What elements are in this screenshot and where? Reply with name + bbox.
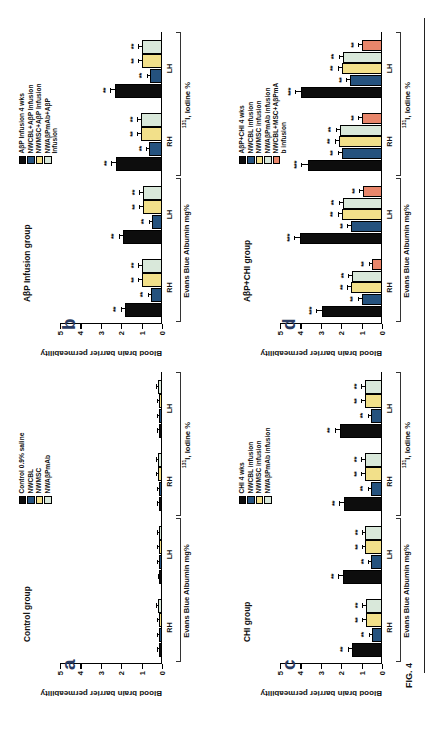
bar-b-c3-s2 (142, 55, 162, 69)
error-cap-a-c1-s0 (158, 574, 159, 578)
error-bar-a-c2-s3 (157, 459, 158, 460)
significance-b-c2-s3: ** (128, 117, 137, 122)
legend-item-c-3[interactable]: NWAβPmAb infusion (264, 372, 272, 504)
bar-b-c1-s0 (123, 230, 162, 244)
legend-item-a-2[interactable]: NWMSC (35, 372, 43, 504)
significance-c-c0-s2: ** (353, 618, 362, 623)
legend-item-c-2[interactable]: NWMSC infusion (255, 372, 263, 504)
bar-a-c1-s2 (159, 541, 162, 555)
legend-label-a-1: NWCBL (27, 469, 35, 494)
legend-item-d-1[interactable]: NWCBL infusion (247, 32, 255, 164)
y-tick-a-3 (101, 664, 102, 669)
bar-a-c2-s0 (159, 497, 162, 511)
y-tick-c-3 (321, 664, 322, 669)
measure-label-a-1: 131I, Iodine % (182, 422, 192, 468)
legend-item-d-4[interactable]: NWCBL+MSC+AβPmA b infusion (272, 32, 287, 164)
error-cap-a-c1-s3 (157, 530, 158, 534)
measure-bracket-c-1 (396, 372, 401, 516)
legend-swatch-d-1 (247, 157, 255, 165)
panel-letter-d: d (278, 319, 300, 330)
significance-d-c2-s0: *** (292, 161, 301, 169)
error-cap-d-c2-s4 (358, 116, 359, 120)
error-bar-c-c1-s0 (339, 575, 343, 576)
error-bar-a-c3-s0 (158, 429, 159, 430)
hemisphere-label-d-1: LH (385, 210, 394, 220)
hemisphere-label-a-1: LH (165, 550, 174, 560)
error-cap-d-c1-s3 (339, 201, 340, 205)
y-tick-b-1 (142, 324, 143, 329)
error-cap-a-c2-s0 (157, 501, 158, 505)
bar-a-c2-s2 (158, 468, 162, 482)
error-cap-a-c0-s3 (156, 603, 157, 607)
legend-item-b-2[interactable]: NWMSC+AβP Infusion (35, 32, 43, 164)
significance-b-c3-s1: ** (137, 73, 146, 78)
y-tick-a-4 (80, 664, 81, 669)
significance-b-c0-s1: ** (138, 292, 147, 297)
legend-swatch-b-0 (19, 157, 27, 165)
legend-item-a-1[interactable]: NWCBL (27, 372, 35, 504)
y-axis-title-a: Blood brain barrier permeability (60, 689, 162, 698)
bar-d-c2-s3 (340, 125, 382, 136)
hemisphere-label-c-2: RH (385, 476, 394, 486)
y-tick-a-2 (121, 664, 122, 669)
legend-item-c-0[interactable]: CHI 4 wks (238, 372, 246, 504)
panel-d: 012345**********************************… (238, 32, 428, 332)
significance-d-c2-s1: ** (328, 151, 337, 156)
significance-d-c3-s4: ** (349, 43, 358, 48)
legend-swatch-d-4 (273, 157, 281, 165)
bar-c-c2-s3 (365, 453, 382, 467)
legend-d: AβP+CHI 4 wksNWCBL infusionNWMSC infusio… (238, 32, 288, 164)
bar-a-c1-s3 (159, 526, 162, 540)
significance-d-c0-s0: *** (307, 307, 316, 315)
significance-c-c2-s0: ** (330, 501, 339, 506)
legend-swatch-c-2 (256, 497, 264, 505)
legend-item-d-3[interactable]: NWAβPmAb infusion (264, 32, 272, 164)
error-cap-a-c3-s2 (157, 399, 158, 403)
error-cap-c-c3-s2 (361, 399, 362, 403)
hemisphere-label-b-0: RH (165, 282, 174, 292)
legend-item-d-2[interactable]: NWMSC infusion (255, 32, 263, 164)
legend-item-b-0[interactable]: AβP Infusion 4 wks (18, 32, 26, 164)
error-bar-a-c1-s0 (159, 575, 160, 576)
significance-d-c0-s1: ** (348, 297, 357, 302)
bar-c-c0-s1 (372, 628, 382, 642)
legend-swatch-c-0 (239, 497, 247, 505)
y-tick-label-c-3: 3 (316, 671, 325, 675)
measure-bracket-d-0 (396, 178, 401, 322)
error-bar-b-c2-s0 (112, 162, 116, 163)
bar-c-c1-s3 (365, 526, 382, 540)
error-bar-b-c3-s2 (139, 60, 141, 61)
measure-label-b-0: Evans Blue Albumin mg% (182, 204, 191, 297)
legend-item-b-1[interactable]: NWCBL+AβP Infusion (27, 32, 35, 164)
significance-b-c2-s0: ** (102, 161, 111, 166)
significance-b-c3-s0: ** (101, 88, 110, 93)
legend-b: AβP Infusion 4 wksNWCBL+AβP InfusionNWMS… (18, 32, 59, 164)
panel-letter-c: c (278, 660, 300, 670)
significance-d-c1-s3: ** (329, 200, 338, 205)
plot-area-d: 012345**********************************… (280, 32, 382, 324)
bar-a-c0-s0 (159, 643, 162, 657)
panel-title-b: AβP Infusion group (22, 224, 32, 302)
legend-item-d-0[interactable]: AβP+CHI 4 wks (238, 32, 246, 164)
error-cap-d-c1-s2 (338, 212, 339, 216)
significance-c-c1-s2: ** (353, 545, 362, 550)
y-tick-label-a-1: 1 (137, 671, 146, 675)
legend-item-a-3[interactable]: NWAβPmAb (44, 372, 52, 504)
bar-a-c1-s0 (159, 570, 162, 584)
error-cap-a-c3-s3 (156, 384, 157, 388)
error-cap-a-c0-s2 (157, 618, 158, 622)
bar-d-c3-s2 (342, 63, 382, 74)
bar-c-c0-s0 (352, 643, 382, 657)
error-cap-c-c3-s3 (361, 384, 362, 388)
error-bar-b-c1-s1 (150, 221, 152, 222)
legend-item-b-3[interactable]: NWAβPmAb+AβP Infusion (44, 32, 59, 164)
plot-area-a: 012345 (60, 372, 162, 664)
error-cap-b-c0-s2 (138, 278, 139, 282)
legend-item-c-1[interactable]: NWCBL infusion (247, 372, 255, 504)
bar-a-c0-s1 (159, 628, 162, 642)
error-cap-b-c3-s3 (138, 44, 139, 48)
figure-canvas: 012345Blood brain barrier permeabilityRH… (0, 0, 446, 732)
measure-label-b-1: 131I, Iodine % (182, 82, 192, 128)
bar-d-c3-s0 (301, 87, 382, 98)
legend-item-a-0[interactable]: Control 0.9% saline (18, 372, 26, 504)
